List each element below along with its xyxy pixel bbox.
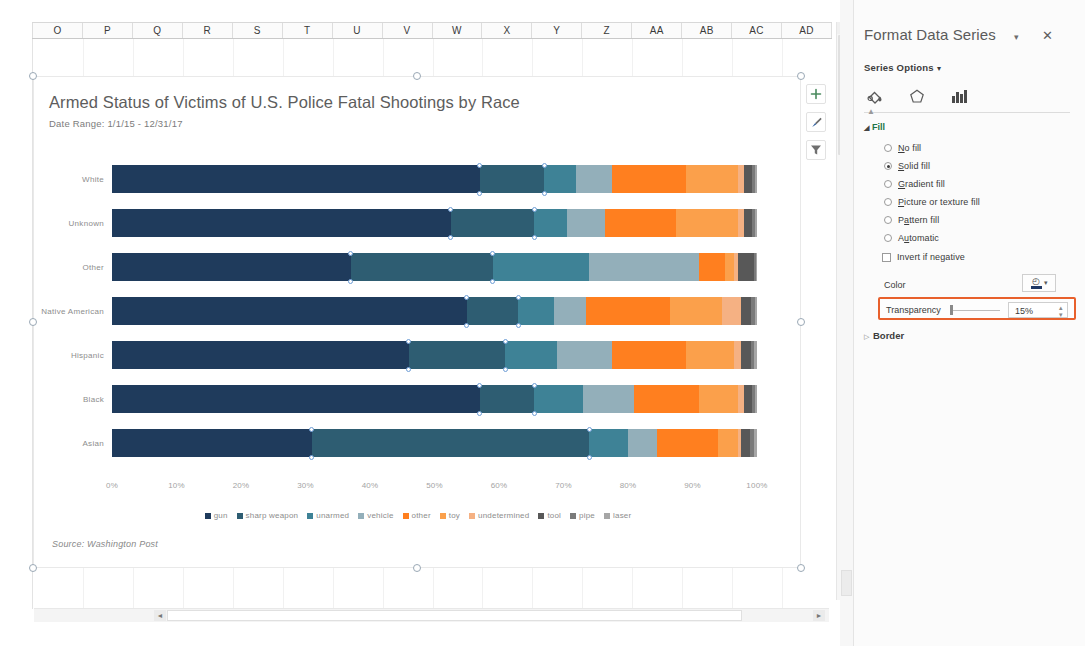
invert-if-negative-checkbox[interactable] bbox=[882, 253, 891, 262]
horizontal-scrollbar-thumb[interactable] bbox=[167, 610, 742, 621]
data-point-handle[interactable] bbox=[503, 367, 508, 372]
bar-segment-laser[interactable] bbox=[754, 429, 757, 457]
bar-segment-unarmed[interactable] bbox=[505, 341, 557, 369]
bar-segment-sharp-weapon[interactable] bbox=[451, 209, 535, 237]
chart-selection-handle-tc[interactable] bbox=[413, 72, 421, 80]
bar-segment-vehicle[interactable] bbox=[589, 253, 699, 281]
bar-segment-vehicle[interactable] bbox=[576, 165, 611, 193]
data-point-handle[interactable] bbox=[464, 295, 469, 300]
bar-segment-gun[interactable] bbox=[112, 165, 480, 193]
chart-filters-button[interactable] bbox=[806, 140, 826, 160]
chart-title[interactable]: Armed Status of Victims of U.S. Police F… bbox=[49, 93, 520, 112]
bar-row[interactable] bbox=[112, 297, 757, 325]
legend-item-laser[interactable]: laser bbox=[604, 511, 631, 520]
bar-segment-other[interactable] bbox=[612, 165, 686, 193]
data-point-handle[interactable] bbox=[448, 235, 453, 240]
bar-segment-other[interactable] bbox=[586, 297, 670, 325]
bar-segment-unarmed[interactable] bbox=[534, 209, 566, 237]
column-header-W[interactable]: W bbox=[433, 23, 483, 38]
legend-item-pipe[interactable]: pipe bbox=[570, 511, 595, 520]
fill-option-pattern-fill[interactable]: Pattern fill bbox=[884, 212, 1069, 228]
expand-triangle-icon[interactable]: ▷ bbox=[864, 333, 869, 340]
column-header-Q[interactable]: Q bbox=[133, 23, 183, 38]
fill-option-gradient-fill[interactable]: Gradient fill bbox=[884, 176, 1069, 192]
scroll-right-arrow-icon[interactable]: ► bbox=[813, 610, 825, 621]
bar-segment-gun[interactable] bbox=[112, 297, 467, 325]
chart-styles-button[interactable] bbox=[806, 112, 826, 132]
close-icon[interactable]: ✕ bbox=[1042, 28, 1053, 43]
data-point-handle[interactable] bbox=[490, 279, 495, 284]
bar-segment-laser[interactable] bbox=[755, 209, 757, 237]
bar-row[interactable] bbox=[112, 341, 757, 369]
column-header-AD[interactable]: AD bbox=[782, 23, 832, 38]
bar-row[interactable] bbox=[112, 209, 757, 237]
column-header-AB[interactable]: AB bbox=[682, 23, 732, 38]
legend-item-undetermined[interactable]: undetermined bbox=[469, 511, 529, 520]
radio-button[interactable] bbox=[884, 144, 892, 152]
chart-selection-handle-br[interactable] bbox=[797, 564, 805, 572]
bar-segment-vehicle[interactable] bbox=[554, 297, 586, 325]
data-point-handle[interactable] bbox=[490, 251, 495, 256]
border-section-header[interactable]: ▷Border bbox=[864, 330, 904, 341]
radio-button[interactable] bbox=[884, 234, 892, 242]
bar-segment-vehicle[interactable] bbox=[557, 341, 612, 369]
data-point-handle[interactable] bbox=[587, 455, 592, 460]
data-point-handle[interactable] bbox=[477, 163, 482, 168]
data-point-handle[interactable] bbox=[542, 163, 547, 168]
bar-segment-other[interactable] bbox=[657, 429, 718, 457]
bar-segment-gun[interactable] bbox=[112, 341, 409, 369]
bar-segment-toy[interactable] bbox=[686, 165, 738, 193]
radio-button[interactable] bbox=[884, 216, 892, 224]
bar-segment-toy[interactable] bbox=[670, 297, 722, 325]
legend-item-unarmed[interactable]: unarmed bbox=[307, 511, 349, 520]
x-axis[interactable]: 0%10%20%30%40%50%60%70%80%90%100% bbox=[112, 481, 757, 499]
bar-row[interactable] bbox=[112, 429, 757, 457]
collapse-triangle-icon[interactable]: ◢ bbox=[864, 124, 869, 131]
transparency-stepper-icon[interactable]: ▴▾ bbox=[1059, 304, 1063, 318]
column-header-V[interactable]: V bbox=[383, 23, 433, 38]
color-dropdown-caret-icon[interactable]: ▾ bbox=[1044, 279, 1048, 287]
bar-segment-other[interactable] bbox=[612, 341, 686, 369]
data-point-handle[interactable] bbox=[448, 207, 453, 212]
bar-segment-unarmed[interactable] bbox=[534, 385, 582, 413]
bar-segment-tool[interactable] bbox=[744, 385, 752, 413]
transparency-row[interactable]: Transparency 15% ▴▾ bbox=[878, 297, 1076, 320]
bar-segment-other[interactable] bbox=[634, 385, 699, 413]
data-point-handle[interactable] bbox=[348, 279, 353, 284]
column-header-P[interactable]: P bbox=[83, 23, 133, 38]
data-point-handle[interactable] bbox=[532, 383, 537, 388]
column-header-S[interactable]: S bbox=[233, 23, 283, 38]
chart-selection-handle-bc[interactable] bbox=[413, 564, 421, 572]
radio-button[interactable] bbox=[884, 162, 892, 170]
data-point-handle[interactable] bbox=[348, 251, 353, 256]
column-header-Y[interactable]: Y bbox=[532, 23, 582, 38]
color-picker-button[interactable]: ◴ ▾ bbox=[1022, 274, 1056, 292]
pane-dropdown-caret-icon[interactable]: ▾ bbox=[1014, 32, 1019, 42]
bar-segment-other[interactable] bbox=[605, 209, 676, 237]
bar-segment-unarmed[interactable] bbox=[493, 253, 590, 281]
chart-selection-handle-tr[interactable] bbox=[797, 72, 805, 80]
column-header-AA[interactable]: AA bbox=[632, 23, 682, 38]
bar-segment-sharp-weapon[interactable] bbox=[351, 253, 493, 281]
data-point-handle[interactable] bbox=[532, 235, 537, 240]
bar-segment-gun[interactable] bbox=[112, 209, 451, 237]
column-header-R[interactable]: R bbox=[183, 23, 233, 38]
transparency-slider-track[interactable] bbox=[952, 310, 1000, 311]
radio-button[interactable] bbox=[884, 198, 892, 206]
data-point-handle[interactable] bbox=[516, 323, 521, 328]
chart-legend[interactable]: gunsharp weaponunarmedvehicleothertoyund… bbox=[34, 511, 802, 520]
data-point-handle[interactable] bbox=[477, 411, 482, 416]
bar-segment-sharp-weapon[interactable] bbox=[480, 165, 545, 193]
bar-segment-tool[interactable] bbox=[744, 165, 752, 193]
horizontal-scrollbar[interactable]: ◄ ► bbox=[34, 608, 829, 622]
invert-if-negative-row[interactable]: Invert if negative bbox=[882, 249, 1072, 265]
chart-elements-button[interactable] bbox=[806, 84, 826, 104]
bar-segment-sharp-weapon[interactable] bbox=[480, 385, 535, 413]
pane-gutter-nub[interactable] bbox=[841, 570, 852, 596]
data-point-handle[interactable] bbox=[532, 207, 537, 212]
bar-segment-tool[interactable] bbox=[741, 297, 751, 325]
data-point-handle[interactable] bbox=[542, 191, 547, 196]
fill-option-solid-fill[interactable]: Solid fill bbox=[884, 158, 1069, 174]
bar-segment-sharp-weapon[interactable] bbox=[312, 429, 589, 457]
chart-object[interactable]: Armed Status of Victims of U.S. Police F… bbox=[33, 76, 801, 568]
